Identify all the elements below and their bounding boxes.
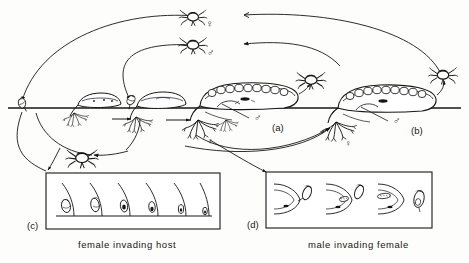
panel-letter-c: (c)	[27, 221, 38, 231]
male-symbol-externa-a: ♂	[254, 113, 262, 123]
female-dispersal-arc	[244, 14, 441, 74]
emitted-larva-a	[296, 72, 327, 90]
female-settle-arc	[22, 15, 196, 101]
male-symbol-externa-b: ♂	[393, 116, 401, 126]
panel-letter-a: (a)	[272, 123, 284, 133]
release-arrow-b	[437, 81, 444, 95]
arc-to-inset-c	[17, 112, 46, 171]
caption-female-invading-host: female invading host	[78, 240, 176, 250]
life-cycle-figure: (a) (b) (c) (d) female invading host mal…	[0, 0, 469, 263]
female-symbol-host-b: ♀	[345, 139, 351, 148]
male-dispersal-arc	[244, 43, 340, 66]
emitted-larva-b	[428, 67, 458, 84]
female-symbol-free-larva: ♀	[206, 19, 214, 29]
panel-letter-b: (b)	[411, 126, 423, 136]
free-female-larva	[179, 10, 208, 26]
pointer-to-inset-d	[210, 140, 266, 172]
externa-stage-young	[63, 93, 121, 127]
female-symbol-host-a: ♀	[207, 137, 213, 146]
midwater-nauplius	[65, 150, 98, 169]
recirculation-left-arrow	[94, 151, 128, 155]
inset-box-d	[266, 172, 432, 228]
caption-male-invading-female: male invading female	[308, 240, 409, 250]
return-arc-a-to-b	[196, 128, 330, 149]
panel-letter-d: (d)	[247, 220, 259, 230]
male-symbol-free-larva: ♂	[207, 48, 215, 58]
pointer-to-inset-c	[48, 148, 60, 170]
free-male-larva	[178, 37, 208, 54]
mantle-aperture-a	[240, 97, 249, 100]
diagram-canvas	[0, 0, 469, 263]
recirculation-from-mid	[126, 119, 140, 150]
mantle-aperture-b	[378, 99, 387, 102]
settling-female-left	[15, 95, 31, 113]
